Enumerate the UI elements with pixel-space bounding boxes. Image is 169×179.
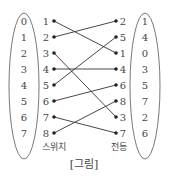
connection-8: [54, 101, 116, 133]
svg-text:5: 5: [120, 32, 126, 43]
bulb-numbers: 2 5 1 4 6 8 3 7: [120, 16, 126, 139]
svg-text:6: 6: [120, 80, 126, 91]
svg-text:1: 1: [21, 32, 27, 43]
left-oval-values: 0 1 2 3 4 5 6 7: [21, 16, 27, 139]
svg-text:1: 1: [142, 16, 148, 27]
svg-text:8: 8: [120, 96, 126, 107]
svg-text:5: 5: [142, 80, 148, 91]
svg-text:5: 5: [43, 80, 49, 91]
svg-text:3: 3: [43, 48, 49, 59]
bulb-label: 전등: [111, 142, 127, 152]
switch-label: 스위치: [42, 141, 66, 152]
svg-text:3: 3: [142, 64, 148, 75]
svg-text:6: 6: [43, 96, 49, 107]
svg-text:7: 7: [21, 128, 27, 139]
connection-3: [54, 53, 116, 117]
svg-text:4: 4: [120, 64, 126, 75]
connection-2: [54, 21, 116, 37]
figure-caption: [그림]: [70, 158, 99, 171]
svg-text:0: 0: [142, 48, 148, 59]
svg-text:1: 1: [120, 48, 126, 59]
connection-7: [54, 117, 116, 133]
svg-text:4: 4: [43, 64, 49, 75]
svg-text:1: 1: [43, 16, 49, 27]
svg-text:4: 4: [21, 80, 27, 91]
svg-text:0: 0: [21, 16, 27, 27]
right-oval-values: 1 4 0 3 5 7 2 6: [142, 16, 148, 139]
svg-text:2: 2: [120, 16, 126, 27]
svg-text:4: 4: [142, 32, 148, 43]
connection-lines: [54, 21, 116, 133]
svg-text:7: 7: [43, 112, 49, 123]
svg-text:6: 6: [142, 128, 148, 139]
svg-text:7: 7: [142, 96, 148, 107]
svg-text:2: 2: [21, 48, 27, 59]
svg-text:5: 5: [21, 96, 27, 107]
switch-numbers: 1 2 3 4 5 6 7 8: [43, 16, 49, 139]
connection-6: [54, 85, 116, 101]
bulb-dots: [114, 19, 118, 135]
svg-text:3: 3: [120, 112, 126, 123]
connection-1: [54, 21, 116, 53]
svg-text:8: 8: [43, 128, 49, 139]
svg-text:2: 2: [43, 32, 49, 43]
switch-dots: [52, 19, 56, 135]
svg-text:3: 3: [21, 64, 27, 75]
svg-text:7: 7: [120, 128, 126, 139]
connection-5: [54, 37, 116, 85]
switch-bulb-diagram: 0 1 2 3 4 5 6 7 1 4 0 3 5 7 2 6 1 2 3 4 …: [0, 0, 169, 179]
svg-text:2: 2: [142, 112, 148, 123]
svg-text:6: 6: [21, 112, 27, 123]
